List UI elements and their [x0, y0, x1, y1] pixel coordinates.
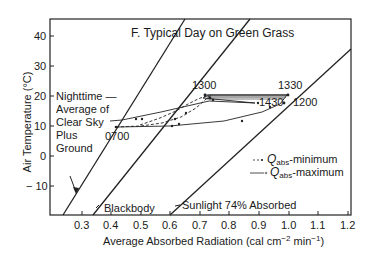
y-tick-20: 20: [34, 91, 46, 102]
blackbody-label: Blackbody: [104, 203, 155, 214]
x-tick-0.3: 0.3: [74, 220, 89, 231]
legend-max-marker: [265, 172, 268, 175]
legend-max-subscript: abs: [279, 171, 292, 180]
legend-min-marker: [261, 159, 263, 161]
y-tick-minus10: − 10: [26, 181, 48, 192]
x-tick-1.1: 1.1: [310, 220, 325, 231]
series-qabs-minimum-b: [140, 96, 206, 125]
nighttime-label-2: Average of: [56, 104, 109, 115]
nighttime-label-1: Nighttime —: [56, 91, 117, 102]
blackbody-line: [93, 19, 250, 215]
x-tick-0.8: 0.8: [221, 220, 236, 231]
x-axis-title-mid: min: [290, 235, 311, 247]
legend-q-symbol: Q: [270, 165, 279, 179]
x-tick-0.7: 0.7: [192, 220, 207, 231]
nighttime-label-4: Plus: [56, 130, 77, 141]
legend-min-text: -minimum: [289, 153, 337, 165]
y-axis-title: Air Temperature (°C): [21, 67, 33, 177]
time-label-1430: 1430: [259, 97, 283, 108]
legend-q-symbol: Q: [267, 152, 276, 166]
sunlight-line: [170, 49, 351, 215]
chart-title: F. Typical Day on Green Grass: [131, 27, 294, 39]
x-tick-1.2: 1.2: [340, 220, 355, 231]
x-tick-0.9: 0.9: [251, 220, 266, 231]
nighttime-label-5: Ground: [56, 143, 93, 154]
nighttime-label-3: Clear Sky: [56, 117, 104, 128]
x-tick-1.0: 1.0: [281, 220, 296, 231]
x-tick-0.4: 0.4: [103, 220, 118, 231]
x-axis-title-exp2: −1: [311, 234, 320, 243]
legend-entry-maximum: Qabs-maximum: [270, 166, 344, 180]
x-tick-0.5: 0.5: [133, 220, 148, 231]
x-axis-title-main: Average Absorbed Radiation (cal cm: [103, 235, 281, 247]
y-tick-30: 30: [34, 61, 46, 72]
sunlight-label: Sunlight 74% Absorbed: [182, 200, 296, 211]
y-tick-0: 0: [40, 151, 46, 162]
x-tick-0.6: 0.6: [162, 220, 177, 231]
time-label-1330: 1330: [278, 80, 302, 91]
y-tick-40: 40: [34, 31, 46, 42]
legend-max-text: -maximum: [292, 166, 343, 178]
y-tick-10: 10: [34, 121, 46, 132]
x-axis-title: Average Absorbed Radiation (cal cm−2 min…: [103, 235, 324, 247]
time-label-0700: 0700: [105, 131, 129, 142]
time-label-1300: 1300: [192, 80, 216, 91]
x-axis-title-end: ): [320, 235, 324, 247]
time-label-1200: 1200: [293, 97, 317, 108]
